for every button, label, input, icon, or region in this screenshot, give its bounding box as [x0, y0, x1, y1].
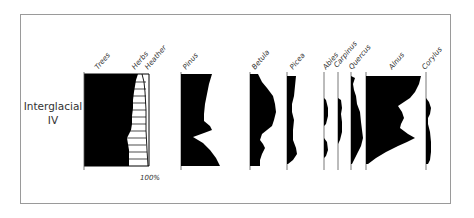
pollen-diagram: Interglacial IV [0, 0, 474, 218]
label-trees: Trees [93, 50, 113, 71]
label-picea: Picea [288, 51, 307, 71]
zone-label-line1: Interglacial [24, 100, 83, 112]
label-betula: Betula [250, 48, 272, 72]
carpinus-curve [338, 72, 342, 170]
corylus-curve [426, 72, 431, 170]
quercus-curve [351, 72, 363, 170]
label-corylus: Corylus [420, 45, 444, 72]
label-pinus: Pinus [181, 51, 200, 72]
pinus-curve [181, 72, 220, 170]
label-100-percent: 100% [140, 174, 160, 182]
label-alnus: Alnus [386, 50, 406, 72]
alnus-curve [366, 72, 421, 170]
abies-curve [324, 72, 328, 170]
zone-label-line2: IV [48, 114, 59, 126]
betula-curve [250, 72, 276, 170]
picea-curve [287, 72, 297, 170]
summary-diagram [84, 72, 149, 170]
